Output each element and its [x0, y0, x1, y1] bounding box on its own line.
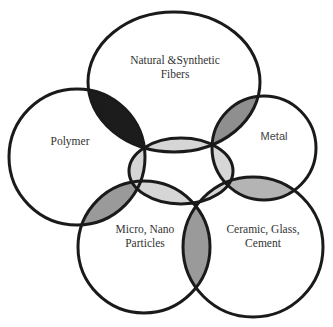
- label-fibers-line2: Fibers: [161, 68, 190, 80]
- set-polymer-outline: [9, 89, 145, 225]
- label-ceramic-line1: Ceramic, Glass,: [226, 223, 299, 236]
- set-fibers-outline: [88, 12, 260, 152]
- label-fibers-line1: Natural &Synthetic: [130, 54, 220, 67]
- label-micro-line2: Particles: [125, 237, 165, 249]
- label-micro-line1: Micro, Nano: [116, 223, 175, 236]
- label-polymer: Polymer: [51, 135, 90, 148]
- label-metal: Metal: [261, 130, 288, 142]
- materials-venn-diagram: Natural &Synthetic Fibers Polymer Metal …: [0, 0, 333, 327]
- label-ceramic-line2: Cement: [245, 237, 282, 249]
